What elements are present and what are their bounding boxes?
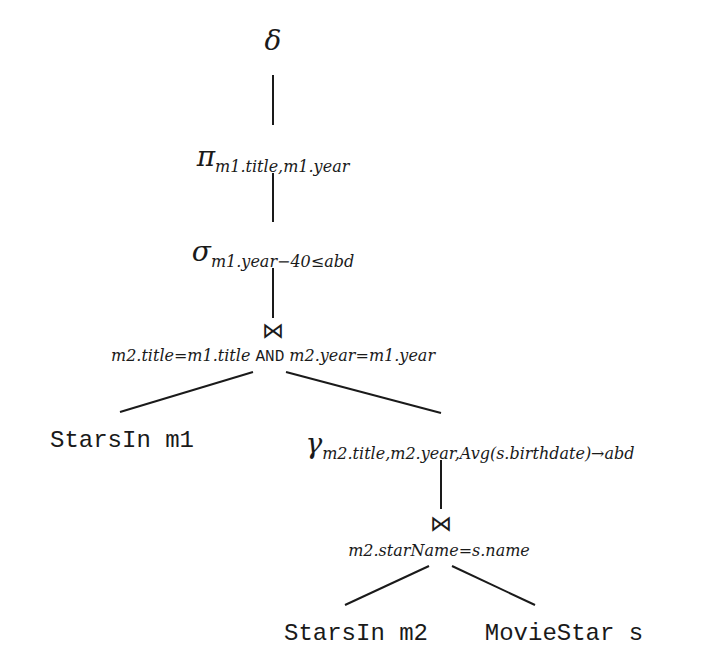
selection-condition: m1.year−40≤abd xyxy=(211,252,354,271)
edge-join2-moviestar xyxy=(452,566,535,605)
join-condition-left: m2.title=m1.title xyxy=(111,346,250,365)
projection-attributes: m1.title,m1.year xyxy=(215,157,349,176)
relation-moviestar-s-label: MovieStar s xyxy=(485,620,643,647)
join-bottom-condition-text: m2.starName=s.name xyxy=(348,541,530,560)
edge-join-starsin-m1 xyxy=(120,372,253,412)
grouping-attributes: m2.title,m2.year,Avg(s.birthdate)→abd xyxy=(322,444,634,463)
edge-join-gamma xyxy=(286,372,441,413)
expression-tree: δ πm1.title,m1.year σm1.year−40≤abd ⋈ m2… xyxy=(0,0,703,669)
join-top-condition: m2.title=m1.title AND m2.year=m1.year xyxy=(111,346,435,366)
relation-starsin-m2-label: StarsIn m2 xyxy=(284,620,428,647)
pi-symbol: π xyxy=(197,140,215,173)
duplicate-elimination-node: δ xyxy=(265,24,282,57)
relation-starsin-m2: StarsIn m2 xyxy=(284,620,428,647)
edge-join2-starsin-m2 xyxy=(345,566,429,605)
delta-symbol: δ xyxy=(265,24,282,57)
relation-starsin-m1: StarsIn m1 xyxy=(50,427,194,454)
join-condition-right: m2.year=m1.year xyxy=(289,346,435,365)
join-bottom-node: ⋈ xyxy=(430,511,452,536)
grouping-node: γm2.title,m2.year,Avg(s.birthdate)→abd xyxy=(305,427,634,460)
join-bowtie-icon: ⋈ xyxy=(262,318,284,343)
join-condition-and: AND xyxy=(255,348,284,366)
gamma-symbol: γ xyxy=(305,427,322,460)
join-bowtie-icon: ⋈ xyxy=(430,511,452,536)
relation-moviestar-s: MovieStar s xyxy=(485,620,643,647)
join-top-node: ⋈ xyxy=(262,318,284,343)
relation-starsin-m1-label: StarsIn m1 xyxy=(50,427,194,454)
selection-node: σm1.year−40≤abd xyxy=(192,235,354,268)
tree-edges xyxy=(0,0,703,669)
join-bottom-condition: m2.starName=s.name xyxy=(348,541,530,560)
projection-node: πm1.title,m1.year xyxy=(197,140,350,173)
sigma-symbol: σ xyxy=(192,235,211,268)
